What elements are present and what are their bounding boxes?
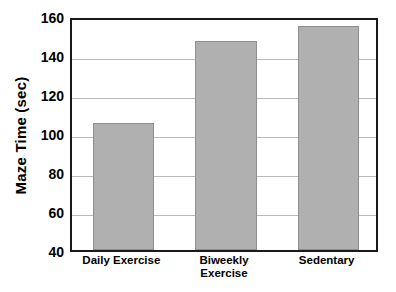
bar: [93, 123, 155, 250]
bar: [298, 26, 360, 250]
y-tick-label: 100: [41, 127, 64, 143]
plot-area: [70, 18, 378, 252]
bar: [195, 41, 257, 250]
y-tick-label: 60: [48, 205, 64, 221]
y-tick-label: 40: [48, 244, 64, 260]
y-tick-label: 120: [41, 88, 64, 104]
y-tick-label: 160: [41, 10, 64, 26]
x-tick-label: Sedentary: [299, 254, 355, 267]
x-axis-tick-labels: Daily ExerciseBiweeklyExerciseSedentary: [70, 254, 378, 292]
x-tick-label-line: Biweekly: [199, 254, 248, 267]
y-axis-title-text: Maze Time (sec): [13, 76, 30, 194]
y-tick-label: 80: [48, 166, 64, 182]
x-tick-label-line: Daily Exercise: [82, 254, 160, 267]
y-tick-label: 140: [41, 49, 64, 65]
x-tick-label-line: Exercise: [199, 267, 248, 280]
bars-layer: [72, 20, 376, 250]
bar-chart: Maze Time (sec) 406080100120140160 Daily…: [0, 0, 396, 292]
y-axis-tick-labels: 406080100120140160: [30, 18, 68, 252]
x-tick-label: BiweeklyExercise: [199, 254, 248, 280]
x-tick-label-line: Sedentary: [299, 254, 355, 267]
x-tick-label: Daily Exercise: [82, 254, 160, 267]
